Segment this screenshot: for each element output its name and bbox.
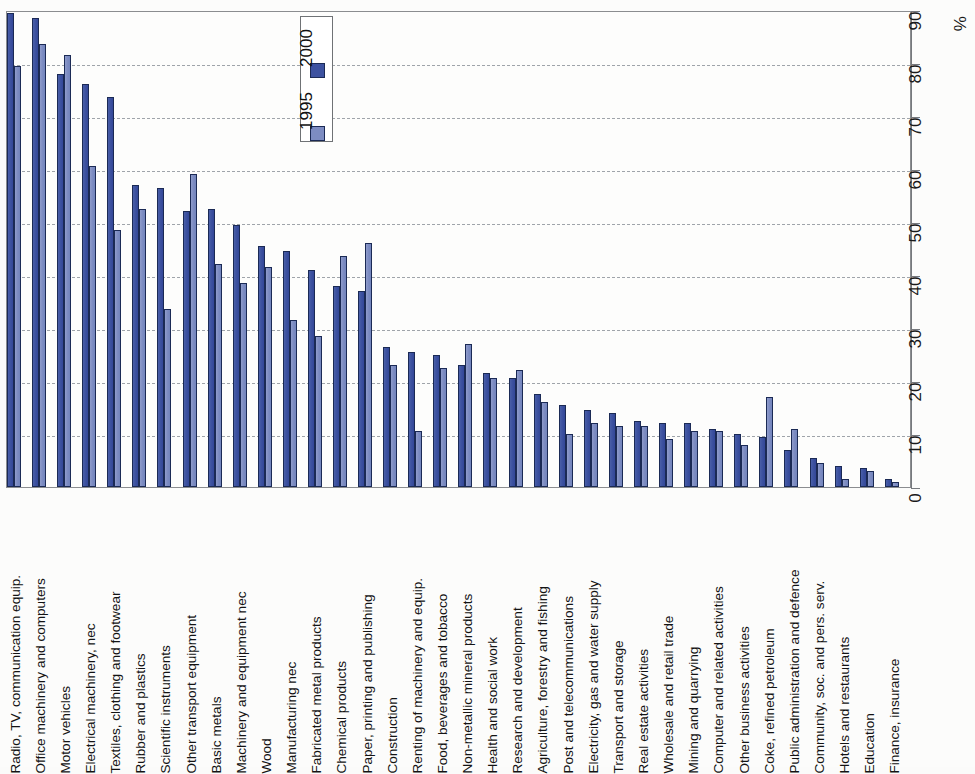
- bar-group: [584, 12, 609, 487]
- bar-1995: [616, 426, 623, 487]
- bar-2000: [233, 225, 240, 487]
- bar-2000: [458, 365, 465, 487]
- bar-2000: [208, 209, 215, 487]
- category-label-text: Office machinery and computers: [34, 578, 48, 773]
- bar-2000: [659, 423, 666, 487]
- legend-item: 1995: [301, 80, 334, 143]
- value-axis: 0102030405060708090: [911, 11, 915, 488]
- category-label-text: Research and development: [512, 607, 526, 773]
- category-label-text: Electricity, gas and water supply: [587, 580, 601, 773]
- plot-area: [6, 11, 911, 488]
- bar-2000: [433, 355, 440, 488]
- category-label-text: Scientific instruments: [160, 645, 174, 773]
- bar-1995: [14, 66, 21, 487]
- bar-group: [132, 12, 157, 487]
- category-labels: Radio, TV, communication equip.Office ma…: [6, 492, 911, 767]
- bar-1995: [842, 479, 849, 487]
- category-label-text: Other business activities: [738, 626, 752, 773]
- axis-tick-label: 20: [906, 383, 926, 402]
- category-label-text: Paper, printing and publishing: [361, 594, 375, 773]
- bar-2000: [408, 352, 415, 487]
- category-label-text: Public administration and defence: [788, 570, 802, 774]
- bar-1995: [265, 267, 272, 487]
- bar-1995: [415, 431, 422, 487]
- bar-1995: [716, 431, 723, 487]
- axis-tick-label: 90: [906, 12, 926, 31]
- bar-2000: [383, 347, 390, 487]
- bar-group: [408, 12, 433, 487]
- axis-tick-label: 10: [906, 436, 926, 455]
- category-label-text: Wood: [260, 738, 274, 773]
- bar-2000: [132, 185, 139, 487]
- category-label-text: Radio, TV, communication equip.: [9, 575, 23, 774]
- bar-2000: [107, 97, 114, 487]
- category-label-text: Education: [864, 713, 878, 773]
- bar-2000: [684, 423, 691, 487]
- bar-1995: [541, 402, 548, 487]
- category-label-text: Health and social work: [487, 637, 501, 774]
- bar-2000: [358, 291, 365, 487]
- bar-1995: [791, 429, 798, 487]
- bar-1995: [516, 370, 523, 487]
- axis-unit-label: %: [951, 16, 971, 31]
- category-label-text: Food, beverages and tobacco: [436, 594, 450, 774]
- bar-2000: [308, 270, 315, 487]
- bar-group: [609, 12, 634, 487]
- bar-group: [208, 12, 233, 487]
- bar-group: [458, 12, 483, 487]
- category-label-text: Community, soc. and pers. serv.: [813, 581, 827, 774]
- category-label-text: Textiles, clothing and footwear: [110, 591, 124, 773]
- bar-group: [233, 12, 258, 487]
- category-label-text: Hotels and restaurants: [839, 637, 853, 774]
- chart-legend: 20001995: [300, 16, 333, 142]
- bar-1995: [89, 166, 96, 487]
- bar-1995: [892, 482, 899, 487]
- bar-group: [509, 12, 534, 487]
- bar-2000: [333, 286, 340, 487]
- bar-2000: [509, 378, 516, 487]
- category-label-text: Rubber and plastics: [135, 653, 149, 773]
- bar-1995: [641, 426, 648, 487]
- category-label-text: Manufacturing nec: [286, 662, 300, 774]
- category-label-text: Non-metallic mineral products: [461, 594, 475, 774]
- axis-tick-label: 80: [906, 65, 926, 84]
- bar-2000: [810, 458, 817, 487]
- bar-2000: [609, 413, 616, 487]
- bar-1995: [190, 174, 197, 487]
- category-label-text: Wholesale and retail trade: [663, 616, 677, 774]
- bar-group: [534, 12, 559, 487]
- bar-2000: [634, 421, 641, 487]
- category-label-text: Coke, refined petroleum: [763, 629, 777, 774]
- bar-group: [258, 12, 283, 487]
- category-label-text: Construction: [386, 697, 400, 773]
- bar-2000: [7, 13, 14, 487]
- bar-1995: [591, 423, 598, 487]
- bar-1995: [666, 439, 673, 487]
- category-label-text: Transport and storage: [612, 640, 626, 773]
- bar-group: [358, 12, 383, 487]
- bar-group: [559, 12, 584, 487]
- bar-2000: [759, 437, 766, 487]
- bar-group: [684, 12, 709, 487]
- bar-group: [860, 12, 885, 487]
- bar-1995: [440, 368, 447, 487]
- bar-group: [835, 12, 860, 487]
- bar-1995: [340, 256, 347, 487]
- bar-1995: [741, 445, 748, 487]
- bar-2000: [559, 405, 566, 487]
- category-label-text: Fabricated metal products: [311, 616, 325, 773]
- bar-2000: [283, 251, 290, 487]
- bar-group: [634, 12, 659, 487]
- bar-1995: [240, 283, 247, 487]
- category-label-text: Machinery and equipment nec: [235, 591, 249, 773]
- bar-2000: [534, 394, 541, 487]
- bar-1995: [766, 397, 773, 487]
- bar-group: [333, 12, 358, 487]
- bar-2000: [784, 450, 791, 487]
- category-label-text: Chemical products: [336, 661, 350, 774]
- legend-label: 1995: [297, 92, 317, 130]
- legend-label: 2000: [297, 29, 317, 67]
- bar-1995: [691, 431, 698, 487]
- category-label-text: Other transport equipment: [185, 615, 199, 774]
